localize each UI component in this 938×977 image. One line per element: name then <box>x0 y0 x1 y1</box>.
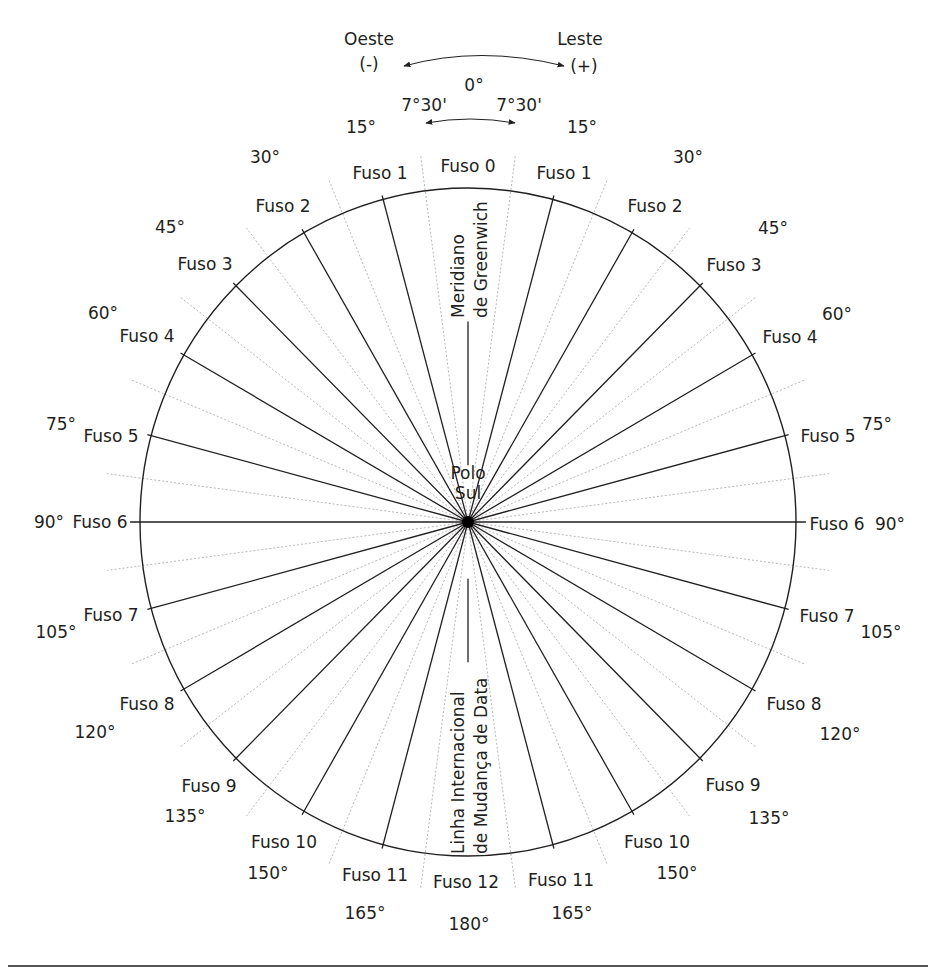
zone-boundary-line <box>246 527 464 816</box>
degree-label: 180° <box>449 914 490 934</box>
degree-label: 60° <box>88 303 118 323</box>
west-east-direction-arrow <box>404 56 564 67</box>
zone-label: Fuso 4 <box>119 326 174 346</box>
zone-width-arrow <box>426 119 515 123</box>
zone-boundary-line <box>472 527 690 816</box>
zone-label: Fuso 7 <box>83 605 138 625</box>
zone-boundary-line <box>246 228 464 517</box>
west-label: Oeste <box>344 29 394 49</box>
zone-center-line <box>181 522 468 691</box>
zone-label: Fuso 1 <box>536 163 591 183</box>
zone-boundary-line <box>473 526 757 748</box>
zone-label: Fuso 7 <box>799 606 854 626</box>
zone-boundary-line <box>474 380 804 519</box>
zone-center-line <box>468 353 755 522</box>
zone-center-line <box>181 353 468 522</box>
zone-boundary-line <box>179 296 463 518</box>
zone-center-line <box>147 435 468 522</box>
degree-label: 45° <box>155 217 185 237</box>
zone-center-line <box>302 229 468 522</box>
degree-label: 105° <box>36 622 77 642</box>
zone-label: Fuso 3 <box>177 254 232 274</box>
zone-center-line <box>302 522 468 815</box>
zone-label: Fuso 4 <box>762 327 817 347</box>
zone-label: Fuso 3 <box>706 255 761 275</box>
degree-label: 30° <box>673 147 703 167</box>
zone-label: Fuso 5 <box>800 426 855 446</box>
zone-center-line <box>233 522 468 761</box>
degree-label: 75° <box>46 414 76 434</box>
zone-label: Fuso 2 <box>255 196 310 216</box>
degree-label: 135° <box>165 806 206 826</box>
bottom-divider-rule <box>8 965 928 967</box>
zone-label: Fuso 9 <box>181 776 236 796</box>
zone-label: Fuso 0 <box>440 156 495 176</box>
degree-label: 120° <box>75 722 116 742</box>
zone-center-line <box>468 522 789 609</box>
zone-label: Fuso 11 <box>528 870 594 890</box>
zone-label: Fuso 6 <box>72 512 127 532</box>
degree-label: 105° <box>861 622 902 642</box>
degree-label: 90° <box>34 512 64 532</box>
zone-center-line <box>468 522 703 761</box>
degree-label: 60° <box>822 304 852 324</box>
half-zone-right-label: 7°30' <box>496 95 542 115</box>
degree-label: 30° <box>250 147 280 167</box>
zone-center-line <box>147 522 468 609</box>
zone-label: Fuso 2 <box>627 196 682 216</box>
degree-label: 45° <box>758 218 788 238</box>
zone-label: Fuso 11 <box>342 865 408 885</box>
east-label: Leste <box>557 29 603 49</box>
zone-label: Fuso 1 <box>352 163 407 183</box>
degree-label: 75° <box>862 414 892 434</box>
zone-boundary-line <box>420 154 467 515</box>
west-sign: (-) <box>359 54 378 74</box>
zone-boundary-line <box>179 526 463 748</box>
zone-center-line <box>468 283 703 522</box>
degree-label: 165° <box>552 903 593 923</box>
degree-label: 150° <box>248 863 289 883</box>
zone-label: Fuso 10 <box>251 832 317 852</box>
degree-label: 135° <box>749 808 790 828</box>
pole-label-line2: Sul <box>455 483 481 503</box>
degree-label: 15° <box>567 117 597 137</box>
degree-label: 150° <box>657 863 698 883</box>
zone-boundary-line <box>474 525 804 664</box>
greenwich-label-line1: Meridiano <box>448 234 468 318</box>
degree-label: 120° <box>820 724 861 744</box>
degree-label: 90° <box>875 514 905 534</box>
zone-center-line <box>468 522 755 691</box>
zone-label: Fuso 6 <box>809 514 864 534</box>
zone-boundary-line <box>132 525 462 664</box>
zone-center-line <box>468 229 634 522</box>
south-pole-dot-icon <box>462 516 474 528</box>
greenwich-label-line2: de Greenwich <box>471 201 491 318</box>
pole-label-line1: Polo <box>450 463 485 483</box>
zone-label: Fuso 8 <box>766 694 821 714</box>
zero-degree-label: 0° <box>464 75 483 95</box>
dateline-label-line1: Linha Internacional <box>448 691 468 854</box>
zone-boundary-line <box>472 228 690 517</box>
degree-label: 165° <box>345 903 386 923</box>
half-zone-left-label: 7°30' <box>401 95 447 115</box>
zone-label: Fuso 12 <box>433 872 499 892</box>
zone-label: Fuso 9 <box>705 775 760 795</box>
zone-boundary-line <box>473 296 757 518</box>
degree-label: 15° <box>346 117 376 137</box>
zone-label: Fuso 5 <box>83 426 138 446</box>
zone-label: Fuso 8 <box>119 694 174 714</box>
zone-boundary-line <box>132 380 462 519</box>
dateline-label-line2: de Mudança de Data <box>471 678 491 855</box>
zone-label: Fuso 10 <box>624 832 690 852</box>
east-sign: (+) <box>570 56 598 76</box>
zone-center-line <box>233 283 468 522</box>
zone-center-line <box>468 435 789 522</box>
zone-center-line <box>468 522 634 815</box>
